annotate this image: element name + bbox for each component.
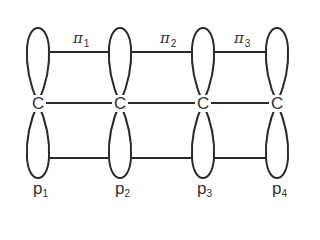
pi-bond-label-3: π3: [234, 31, 250, 49]
p-orbital-2-lower-lobe: [109, 103, 131, 178]
carbon-atom-1: C: [31, 95, 45, 112]
pi-index: 1: [84, 38, 90, 49]
p-orbital-3-upper-lobe: [192, 28, 214, 103]
p-orbital-4-upper-lobe: [266, 28, 288, 103]
orbital-label-3: p3: [197, 180, 212, 199]
pi-symbol: π: [73, 29, 83, 47]
orbital-label-1: p1: [33, 180, 48, 199]
pi-index: 2: [171, 38, 177, 49]
orbital-index: 4: [281, 188, 287, 199]
orbital-label-2: p2: [115, 180, 130, 199]
p-orbital-4-lower-lobe: [266, 103, 288, 178]
p-orbital-1-upper-lobe: [27, 28, 49, 103]
orbital-index: 2: [124, 188, 130, 199]
orbital-index: 3: [206, 188, 212, 199]
pi-bond-label-1: π1: [73, 31, 89, 49]
p-orbital-3-lower-lobe: [192, 103, 214, 178]
p-orbital-2-upper-lobe: [109, 28, 131, 103]
pi-symbol: π: [234, 29, 244, 47]
carbon-atom-2: C: [113, 95, 127, 112]
orbital-label-4: p4: [272, 180, 287, 199]
pi-symbol: π: [160, 29, 170, 47]
orbital-index: 1: [42, 188, 48, 199]
pi-index: 3: [245, 38, 251, 49]
pi-bond-label-2: π2: [160, 31, 176, 49]
p-orbital-1-lower-lobe: [27, 103, 49, 178]
carbon-atom-4: C: [270, 95, 284, 112]
carbon-atom-3: C: [196, 95, 210, 112]
